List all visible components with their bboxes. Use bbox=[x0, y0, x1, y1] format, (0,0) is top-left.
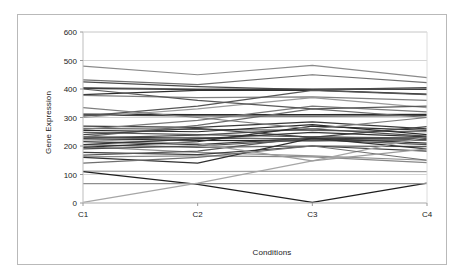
line-chart-plot: 0100200300400500600 C1C2C3C4 bbox=[18, 15, 446, 264]
x-tick-label: C3 bbox=[307, 210, 318, 219]
axis-lines-group bbox=[80, 32, 427, 206]
chart-figure: 0100200300400500600 C1C2C3C4 Gene Expres… bbox=[0, 0, 466, 277]
y-tick-label: 200 bbox=[64, 142, 78, 151]
y-tick-label: 300 bbox=[64, 114, 78, 123]
y-tick-label: 500 bbox=[64, 57, 78, 66]
data-line bbox=[83, 156, 427, 163]
data-line bbox=[83, 115, 427, 116]
x-axis-title: Conditions bbox=[100, 248, 444, 257]
y-tick-label: 600 bbox=[64, 28, 78, 37]
data-line bbox=[83, 65, 427, 77]
y-tick-label: 0 bbox=[73, 199, 78, 208]
chart-outer-frame: 0100200300400500600 C1C2C3C4 Gene Expres… bbox=[17, 14, 447, 265]
data-lines-group bbox=[83, 65, 427, 202]
data-line bbox=[83, 172, 427, 203]
y-tick-labels-group: 0100200300400500600 bbox=[64, 28, 78, 208]
x-tick-label: C1 bbox=[78, 210, 89, 219]
data-line bbox=[83, 75, 427, 85]
y-tick-label: 100 bbox=[64, 171, 78, 180]
y-tick-label: 400 bbox=[64, 85, 78, 94]
y-axis-title: Gene Expression bbox=[44, 73, 53, 173]
x-tick-label: C4 bbox=[422, 210, 433, 219]
x-tick-label: C2 bbox=[193, 210, 204, 219]
x-tick-labels-group: C1C2C3C4 bbox=[78, 210, 433, 219]
